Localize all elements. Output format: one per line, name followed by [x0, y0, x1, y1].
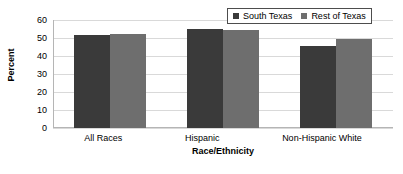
bar: [187, 29, 223, 128]
bar-group: [300, 20, 372, 128]
legend-item: South Texas: [233, 11, 292, 21]
y-axis-tick-label: 0: [42, 124, 47, 133]
y-axis-tick-label: 30: [37, 70, 47, 79]
y-axis-tick-label: 60: [37, 16, 47, 25]
legend-label: South Texas: [243, 11, 292, 21]
y-axis-title: Percent: [0, 0, 22, 130]
y-axis-tick-label: 10: [37, 106, 47, 115]
y-axis-tick-labels: 6050403020100: [22, 20, 50, 128]
x-axis-category-label: Non-Hispanic White: [282, 131, 362, 145]
y-axis-tick-label: 20: [37, 88, 47, 97]
y-axis-title-text: Percent: [6, 48, 16, 81]
x-axis-category-label: Hispanic: [185, 131, 220, 145]
bar-groups: [53, 20, 393, 128]
y-axis-tick-label: 40: [37, 52, 47, 61]
x-axis-title: Race/Ethnicity: [53, 146, 393, 156]
legend-swatch-light-icon: [301, 13, 307, 19]
bar: [336, 39, 372, 128]
bar: [300, 46, 336, 128]
x-axis-category-label: All Races: [84, 131, 122, 145]
bar: [223, 30, 259, 128]
legend-item: Rest of Texas: [301, 11, 365, 21]
plot-area: [53, 20, 393, 128]
gridline: [53, 128, 393, 129]
legend: South TexasRest of Texas: [227, 8, 372, 24]
bar: [74, 35, 110, 128]
y-axis-tick-label: 50: [37, 34, 47, 43]
legend-swatch-dark-icon: [233, 13, 239, 19]
bar-group: [74, 20, 146, 128]
bar: [110, 34, 146, 128]
bar-chart: Percent 6050403020100 All RacesHispanicN…: [0, 0, 403, 174]
legend-label: Rest of Texas: [311, 11, 365, 21]
x-axis-category-labels: All RacesHispanicNon-Hispanic White: [53, 131, 393, 145]
bar-group: [187, 20, 259, 128]
